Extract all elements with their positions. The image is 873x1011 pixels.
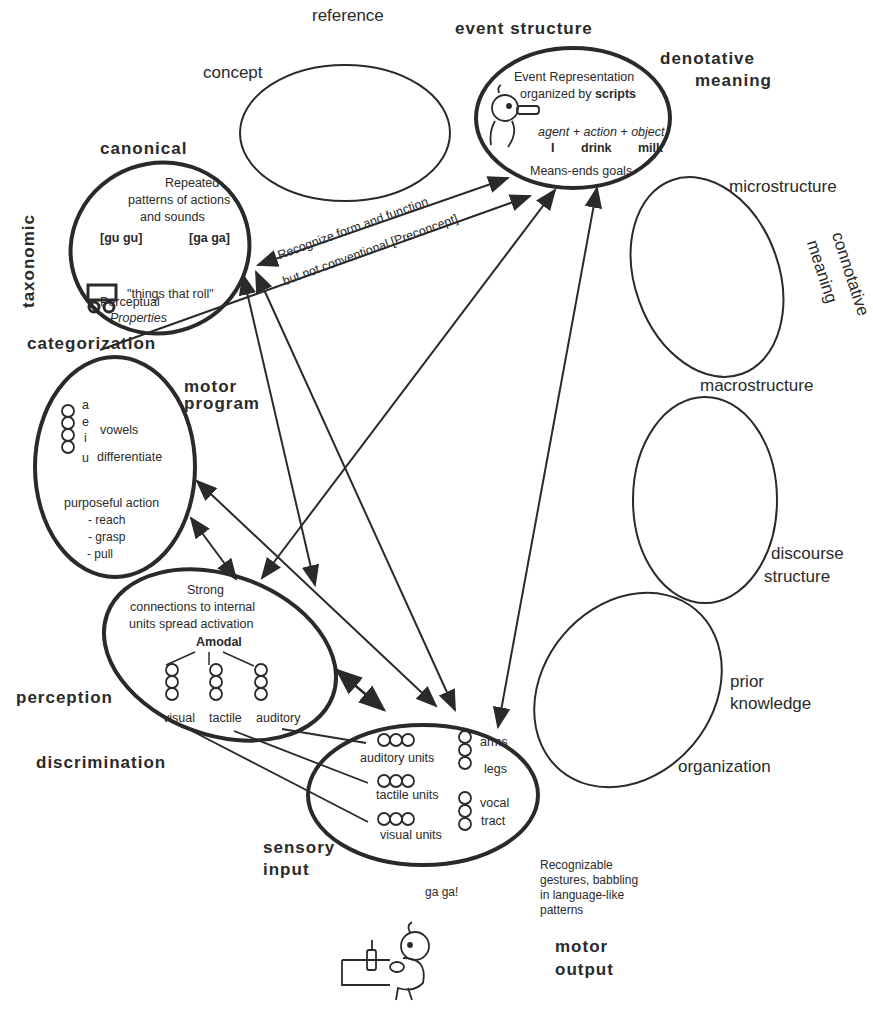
- event-line2a: organized by: [520, 87, 595, 101]
- modality-auditory: auditory: [256, 712, 300, 725]
- concept-ellipse: [240, 65, 450, 201]
- perception-line3: units spread activation: [129, 618, 253, 631]
- canonical-ellipse: [46, 137, 273, 358]
- label-denotative: denotative: [660, 50, 755, 68]
- vowel-e: e: [82, 416, 89, 429]
- motor-tract: tract: [481, 815, 505, 828]
- label-prior: prior: [730, 673, 764, 691]
- canonical-gaga: [ga ga]: [189, 232, 230, 245]
- label-concept: concept: [203, 64, 263, 82]
- output-desc-2: gestures, babbling: [540, 874, 638, 887]
- baby-playing-icon: [342, 922, 429, 1000]
- event-roles: agent + action + object: [538, 126, 664, 139]
- motor-vocal: vocal: [480, 797, 509, 810]
- label-structure: structure: [764, 568, 830, 586]
- canonical-gugu: [gu gu]: [100, 232, 142, 245]
- label-input: input: [263, 861, 310, 879]
- label-output: output: [555, 961, 614, 979]
- event-scripts: scripts: [595, 87, 636, 101]
- vowel-a: a: [82, 399, 89, 412]
- label-sensory: sensory: [263, 839, 335, 857]
- arrow-perception-sensory: [337, 670, 384, 710]
- vowel-units-icon: [62, 405, 74, 453]
- label-event-structure: event structure: [455, 20, 593, 38]
- label-reference: reference: [312, 7, 384, 25]
- vowels-label: vowels: [100, 424, 138, 437]
- canonical-line1: Repeated: [165, 177, 219, 190]
- motor-legs: legs: [484, 763, 507, 776]
- baby-speech: ga ga!: [425, 886, 458, 899]
- sensory-tactile-units: tactile units: [376, 789, 439, 802]
- arrow-event-sensory: [498, 188, 597, 727]
- label-discourse: discourse: [771, 545, 844, 563]
- differentiate-label: differentiate: [97, 451, 162, 464]
- label-motor-output: motor: [555, 938, 608, 956]
- motor-arms: arms: [480, 736, 508, 749]
- perception-amodal: Amodal: [196, 636, 242, 649]
- output-desc-1: Recognizable: [540, 859, 613, 872]
- canonical-properties: Properties: [110, 312, 167, 325]
- label-organization: organization: [678, 758, 771, 776]
- sensory-visual-units: visual units: [380, 829, 442, 842]
- vowel-i: i: [84, 432, 87, 445]
- modality-units-icon: [166, 664, 267, 700]
- event-action: drink: [581, 142, 612, 155]
- arrow-canonical-sensory: [256, 272, 455, 710]
- output-desc-3: in language-like: [540, 889, 624, 902]
- label-meaning: meaning: [695, 72, 772, 90]
- event-agent: I: [551, 142, 554, 155]
- amodal-branch-visual: [166, 652, 195, 665]
- event-goals: Means-ends goals: [530, 165, 632, 178]
- action-pull: - pull: [87, 548, 113, 561]
- canonical-perceptual: Perceptual: [100, 296, 160, 309]
- link-auditory: [282, 729, 366, 743]
- label-discrimination: discrimination: [36, 754, 166, 772]
- perception-ellipse: [80, 539, 360, 771]
- event-line1: Event Representation: [514, 71, 634, 84]
- label-macrostructure: macrostructure: [700, 377, 813, 395]
- event-object: milk: [638, 142, 663, 155]
- arrow-motor-sensory: [197, 481, 436, 706]
- label-microstructure: microstructure: [729, 178, 837, 196]
- label-knowledge: knowledge: [730, 695, 811, 713]
- output-desc-4: patterns: [540, 904, 583, 917]
- link-tactile: [234, 731, 368, 783]
- canonical-line3: and sounds: [140, 211, 205, 224]
- label-categorization: categorization: [27, 335, 156, 353]
- label-canonical: canonical: [100, 140, 187, 158]
- motor-program-ellipse: [35, 357, 195, 577]
- purposeful-action: purposeful action: [64, 497, 159, 510]
- action-grasp: - grasp: [88, 531, 125, 544]
- vowel-u: u: [82, 452, 89, 465]
- perception-line1: Strong: [187, 584, 224, 597]
- sensory-auditory-units: auditory units: [360, 752, 434, 765]
- label-program: program: [184, 395, 260, 413]
- modality-tactile: tactile: [209, 712, 242, 725]
- label-perception: perception: [16, 689, 113, 707]
- canonical-line2: patterns of actions: [128, 194, 230, 207]
- amodal-branch-auditory: [223, 652, 254, 666]
- modality-visual: visual: [163, 712, 195, 725]
- label-taxonomic: taxonomic: [20, 214, 38, 308]
- sensory-units-icon: [378, 731, 471, 830]
- macrostructure-ellipse: [633, 397, 777, 603]
- action-reach: - reach: [88, 514, 125, 527]
- perception-line2: connections to internal: [130, 601, 255, 614]
